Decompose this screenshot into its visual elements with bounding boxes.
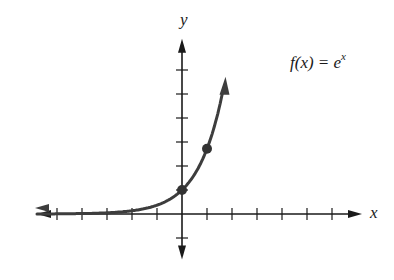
formula-exponent: x: [341, 50, 346, 62]
formula-main: f(x) = e: [290, 53, 341, 72]
data-point: [177, 185, 187, 195]
y-axis-arrow-down-icon: [178, 246, 186, 260]
y-axis-label: y: [180, 10, 188, 30]
y-axis-arrow-up-icon: [178, 39, 186, 53]
x-axis-arrow-right-icon: [348, 210, 362, 218]
data-point: [202, 144, 212, 154]
exp-curve: [37, 93, 223, 214]
exponential-plot: [0, 0, 394, 280]
curve-arrow-up-icon: [220, 77, 230, 95]
curve-arrow-left-icon: [35, 204, 49, 212]
function-formula: f(x) = ex: [290, 50, 346, 73]
x-axis-label: x: [370, 203, 378, 223]
